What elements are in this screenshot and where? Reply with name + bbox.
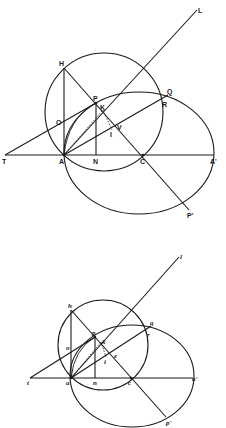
label-V: V (117, 124, 122, 131)
label-a: a (66, 379, 70, 387)
label-A-prime: A' (210, 158, 217, 165)
label-k: k (102, 338, 106, 346)
label-O: O (56, 119, 62, 126)
line-AL (64, 10, 197, 155)
label-R: R (162, 101, 167, 108)
label-p: p (91, 329, 96, 337)
label-q: q (150, 319, 154, 327)
label-K: K (100, 104, 105, 111)
label-r: r (147, 331, 150, 339)
label-o: o (66, 344, 70, 352)
label-c: c (128, 379, 131, 387)
ellipse (70, 325, 194, 427)
tangent-TP (5, 103, 96, 155)
label-P-prime: P' (187, 212, 194, 219)
label-n: n (93, 379, 97, 387)
label-a-prime: a' (192, 375, 198, 383)
label-i: i (104, 358, 106, 366)
label-N: N (93, 158, 98, 165)
dashed-KI (103, 110, 112, 130)
arc-AP (64, 103, 96, 155)
label-t: t (27, 379, 30, 387)
label-e: e (114, 352, 117, 360)
label-T: T (2, 158, 7, 165)
label-C: C (140, 158, 145, 165)
lower-figure: l h p k q r o e i t a n c a' p' (27, 253, 198, 427)
label-P: P (93, 95, 98, 102)
geometry-diagram: L H P K Q R O V I T A N C A' P' l h p k (0, 0, 226, 428)
label-l: l (180, 253, 182, 261)
line-al (71, 257, 179, 378)
label-I: I (110, 131, 112, 138)
label-H: H (59, 60, 64, 67)
label-A: A (59, 158, 64, 165)
tangent-tp (30, 337, 95, 378)
label-L: L (198, 7, 203, 14)
label-h: h (68, 302, 72, 310)
label-Q: Q (167, 88, 173, 96)
upper-figure: L H P K Q R O V I T A N C A' P' (2, 7, 217, 219)
label-p-prime: p' (165, 419, 172, 427)
